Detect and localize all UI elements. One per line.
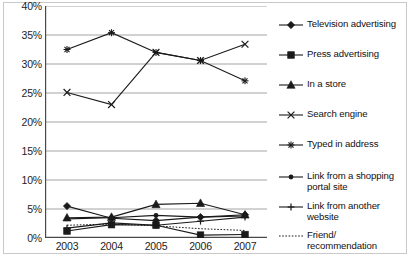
series-5 [64, 29, 249, 84]
diamond-marker-icon [278, 19, 304, 31]
triangle-marker-icon [278, 79, 304, 91]
legend-label: Search engine [307, 108, 368, 119]
y-tick-label: 30% [22, 59, 42, 70]
legend-label: Friend/ recommendation [307, 229, 406, 252]
figure-caption [6, 255, 286, 264]
plot-area: 0%5%10%15%20%25%30%35%40% 20032004200520… [8, 6, 270, 250]
plus-marker-icon [278, 201, 304, 213]
legend-item[interactable]: Link from another website [278, 200, 406, 223]
chart-figure: 0%5%10%15%20%25%30%35%40% 20032004200520… [0, 0, 411, 264]
y-tick-label: 15% [22, 146, 42, 157]
asterisk-marker-icon [278, 139, 304, 151]
x-tick-label: 2007 [234, 241, 257, 252]
y-tick-label: 5% [27, 204, 42, 215]
y-tick-label: 0% [27, 233, 42, 244]
legend-item[interactable]: Typed in address [278, 138, 406, 151]
legend-label: Typed in address [307, 138, 378, 149]
series-canvas [45, 6, 267, 238]
legend-label: In a store [307, 78, 346, 89]
legend-label: Link from a shopping portal site [307, 170, 406, 193]
cross-marker-icon [278, 109, 304, 121]
x-tick-label: 2003 [56, 241, 79, 252]
chart-legend: Television advertisingPress advertisingI… [278, 8, 406, 252]
legend-item[interactable]: Search engine [278, 108, 406, 121]
y-tick-label: 35% [22, 30, 42, 41]
legend-label: Press advertising [307, 48, 379, 59]
y-tick-label: 25% [22, 88, 42, 99]
legend-label: Link from another website [307, 200, 406, 223]
none-marker-icon [278, 230, 304, 242]
plot-canvas [45, 6, 267, 238]
x-tick-label: 2005 [145, 241, 168, 252]
x-tick-label: 2006 [189, 241, 212, 252]
y-tick-label: 10% [22, 175, 42, 186]
legend-item[interactable]: Television advertising [278, 18, 406, 31]
x-tick-label: 2004 [100, 241, 123, 252]
legend-item[interactable]: Press advertising [278, 48, 406, 61]
y-axis-tick-labels: 0%5%10%15%20%25%30%35%40% [8, 6, 44, 238]
legend-item[interactable]: Friend/ recommendation [278, 229, 406, 252]
legend-item[interactable]: In a store [278, 78, 406, 91]
square-marker-icon [278, 49, 304, 61]
legend-item[interactable]: Link from a shopping portal site [278, 170, 406, 193]
legend-label: Television advertising [307, 18, 396, 29]
y-tick-label: 40% [22, 1, 42, 12]
circle-marker-icon [278, 171, 304, 183]
x-axis-tick-labels: 20032004200520062007 [45, 239, 267, 255]
y-tick-label: 20% [22, 117, 42, 128]
